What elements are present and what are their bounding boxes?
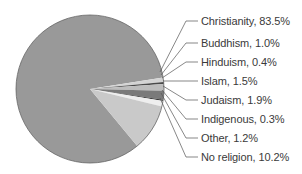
slice-label-buddhism: Buddhism, 1.0% [201, 37, 280, 49]
slice-label-no-religion: No religion, 10.2% [201, 151, 289, 163]
leader-line-hinduism [162, 62, 198, 78]
slice-label-christianity: Christianity, 83.5% [201, 15, 290, 27]
leader-lines [160, 21, 198, 157]
leader-line-no-religion [160, 98, 198, 157]
slice-label-hinduism: Hinduism, 0.4% [201, 56, 277, 68]
leader-line-christianity [160, 21, 198, 72]
pie-slices [16, 15, 164, 163]
slice-label-islam: Islam, 1.5% [201, 75, 258, 87]
slice-labels: Christianity, 83.5%Buddhism, 1.0%Hinduis… [201, 15, 290, 163]
slice-label-other: Other, 1.2% [201, 132, 258, 144]
religion-pie-chart: Christianity, 83.5%Buddhism, 1.0%Hinduis… [0, 0, 302, 174]
slice-label-judaism: Judaism, 1.9% [201, 94, 272, 106]
slice-label-indigenous: Indigenous, 0.3% [201, 113, 285, 125]
